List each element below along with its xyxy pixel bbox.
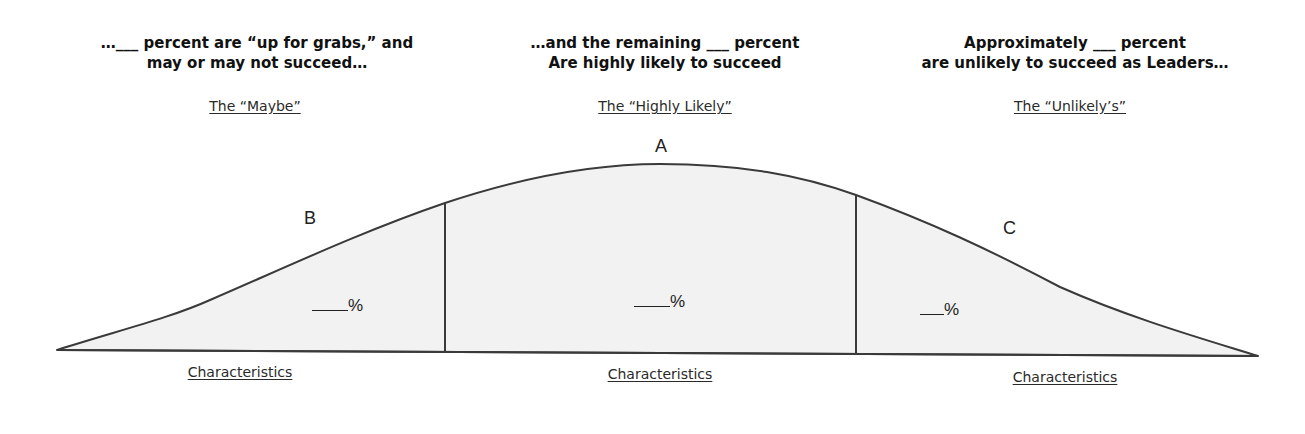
maybe-percent-blank: % — [312, 296, 363, 316]
unlikely-characteristics-label: Characteristics — [975, 369, 1155, 385]
highly-likely-characteristics-label: Characteristics — [570, 366, 750, 382]
highly-likely-category-label: The “Highly Likely” — [560, 98, 770, 114]
highly-likely-header-line-2: Are highly likely to succeed — [470, 53, 860, 73]
maybe-header: …___ percent are “up for grabs,” and may… — [52, 33, 462, 73]
maybe-header-line-2: may or may not succeed… — [52, 53, 462, 73]
bell-curve-area — [57, 164, 1258, 356]
unlikely-header-line-1: Approximately ___ percent — [875, 33, 1275, 53]
point-c-label: C — [1003, 218, 1016, 239]
maybe-header-line-1: …___ percent are “up for grabs,” and — [52, 33, 462, 53]
unlikely-category-label: The “Unlikely’s” — [970, 98, 1170, 114]
point-a-label: A — [655, 136, 667, 157]
maybe-characteristics-label: Characteristics — [150, 364, 330, 380]
unlikely-percent-blank: % — [920, 300, 959, 320]
highly-likely-header-line-1: …and the remaining ___ percent — [470, 33, 860, 53]
highly-likely-percent-blank: % — [634, 292, 685, 312]
maybe-category-label: The “Maybe” — [160, 98, 350, 114]
highly-likely-header: …and the remaining ___ percent Are highl… — [470, 33, 860, 73]
point-b-label: B — [304, 208, 316, 229]
unlikely-header-line-2: are unlikely to succeed as Leaders… — [875, 53, 1275, 73]
unlikely-header: Approximately ___ percent are unlikely t… — [875, 33, 1275, 73]
